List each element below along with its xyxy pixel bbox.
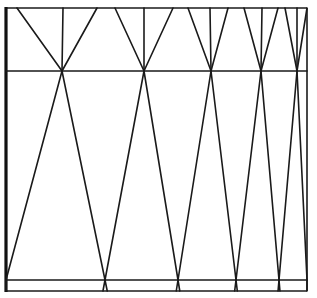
- top-ray: [144, 8, 173, 71]
- mid-ray: [62, 71, 105, 280]
- mid-ray: [279, 71, 297, 280]
- top-ray: [62, 8, 97, 71]
- top-ray: [62, 8, 63, 71]
- top-ray: [297, 8, 307, 71]
- mid-ray: [105, 71, 144, 280]
- bottom-crossings: [6, 280, 307, 291]
- middle-zigzag: [6, 71, 307, 280]
- mid-ray: [236, 71, 261, 280]
- bottom-ray: [176, 280, 178, 291]
- bottom-ray: [278, 280, 279, 291]
- top-ray: [285, 8, 297, 71]
- top-ray: [261, 8, 262, 71]
- mid-ray: [178, 71, 211, 280]
- mid-ray: [261, 71, 279, 280]
- bottom-ray: [235, 280, 236, 291]
- top-ray: [211, 8, 228, 71]
- mid-ray: [297, 71, 307, 280]
- diagram-canvas: [0, 0, 317, 298]
- line-pattern-diagram: [0, 0, 317, 298]
- top-ray: [244, 8, 261, 71]
- top-ray: [115, 8, 144, 71]
- horizontal-lines: [6, 71, 307, 280]
- top-ray: [17, 8, 62, 71]
- mid-ray: [144, 71, 178, 280]
- bottom-ray: [103, 280, 105, 291]
- top-ray: [261, 8, 278, 71]
- mid-ray: [6, 71, 62, 280]
- top-fans: [17, 8, 307, 71]
- top-ray: [188, 8, 211, 71]
- mid-ray: [211, 71, 236, 280]
- top-ray: [210, 8, 211, 71]
